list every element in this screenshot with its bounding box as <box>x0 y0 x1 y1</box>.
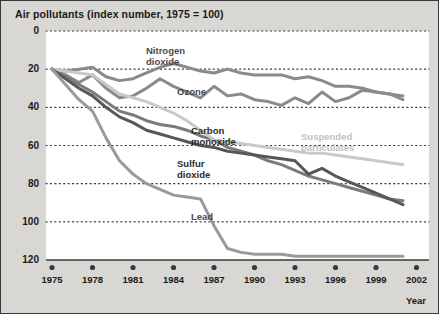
series-label-suspended-particulates-line1: Suspended <box>301 131 352 142</box>
y-axis-tick-label: 40 <box>7 101 39 112</box>
x-axis-tick-dots <box>49 265 419 270</box>
x-axis-tick-label: 1993 <box>275 274 315 285</box>
x-axis-tick-label: 1981 <box>113 274 153 285</box>
y-axis-tick-label: 0 <box>7 25 39 36</box>
y-axis-tick-label: 100 <box>7 216 39 227</box>
x-axis-tick-label: 1999 <box>356 274 396 285</box>
x-axis-tick-label: 1978 <box>73 274 113 285</box>
x-axis-tick-label: 1975 <box>32 274 72 285</box>
y-axis-tick-label: 60 <box>7 140 39 151</box>
y-axis-tick-label: 120 <box>7 254 39 265</box>
y-axis-tick-label: 80 <box>7 178 39 189</box>
series-label-ozone: Ozone <box>177 86 206 97</box>
chart-svg <box>1 1 439 314</box>
series-label-sulfur-dioxide-line2: dioxide <box>177 169 210 180</box>
series-label-lead: Lead <box>191 211 213 222</box>
x-axis-tick-label: 1996 <box>316 274 356 285</box>
x-axis-title: Year <box>406 295 426 306</box>
series-label-carbon-monoxide-line2: monoxide <box>191 136 236 147</box>
series-label-carbon-monoxide-line1: Carbon <box>191 125 224 136</box>
x-axis-tick-label: 1987 <box>194 274 234 285</box>
x-axis-tick-label: 1984 <box>154 274 194 285</box>
series-label-sulfur-dioxide-line1: Sulfur <box>177 158 204 169</box>
x-axis-tick-label: 1990 <box>235 274 275 285</box>
chart-figure: Air pollutants (index number, 1975 = 100… <box>0 0 439 314</box>
series-label-nitrogen-dioxide-line2: dioxide <box>146 56 179 67</box>
series-label-suspended-particulates-line2: particulates <box>301 142 354 153</box>
x-axis-tick-label: 2002 <box>397 274 437 285</box>
y-axis-tick-label: 20 <box>7 63 39 74</box>
data-lines <box>52 63 403 256</box>
series-label-nitrogen-dioxide-line1: Nitrogen <box>146 45 185 56</box>
